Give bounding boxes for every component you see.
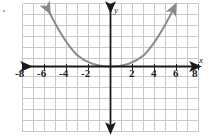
x-tick-label--8: -8: [15, 68, 24, 79]
x-tick-label--6: -6: [37, 68, 46, 79]
x-tick-label--4: -4: [59, 68, 68, 79]
graph-figure: -8 -6 -4 -2 2 4 6 8 x y: [0, 0, 209, 138]
x-tick-label--2: -2: [81, 68, 90, 79]
x-axis-label: x: [199, 56, 203, 65]
x-tick-label-8: 8: [192, 68, 198, 79]
y-axis-label: y: [114, 6, 118, 15]
x-tick-label-4: 4: [151, 68, 157, 79]
x-tick-label-2: 2: [129, 68, 135, 79]
x-tick-label-6: 6: [173, 68, 179, 79]
